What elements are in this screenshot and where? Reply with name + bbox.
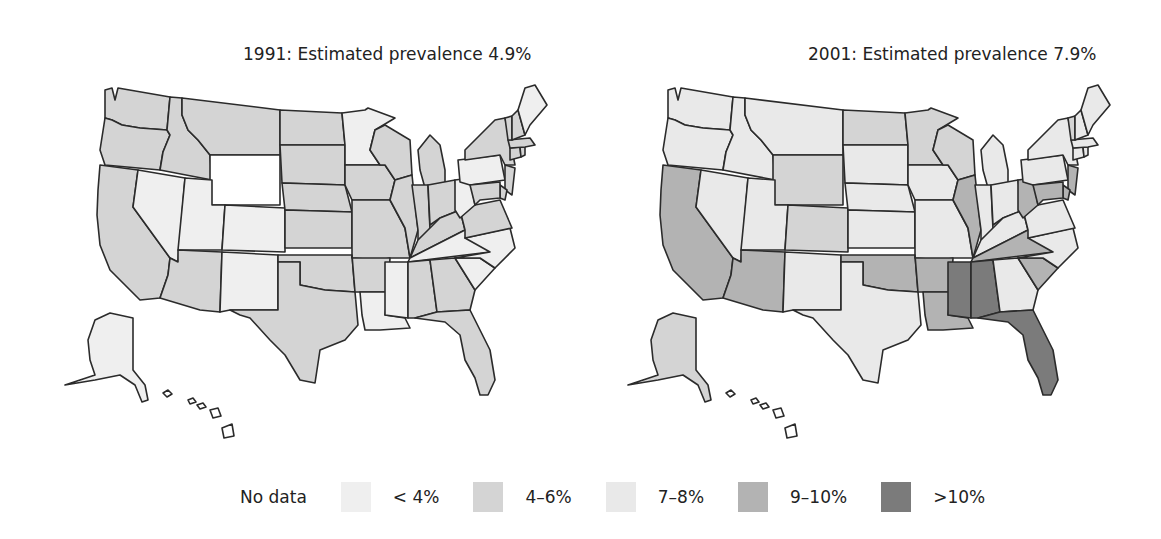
legend-item-4to6: 4–6% [473,482,571,512]
legend-swatch [738,482,768,512]
state-ne [845,183,915,212]
state-co [785,205,848,252]
state-me [1081,85,1110,135]
legend-label: 7–8% [658,487,704,507]
state-fl [978,310,1058,395]
state-ms [948,262,971,318]
legend-swatch [606,482,636,512]
legend-label: No data [240,487,307,507]
legend-item-lt4: < 4% [341,482,440,512]
state-ia [908,165,958,200]
us-map-2001 [0,0,1161,539]
state-ri [1083,147,1088,157]
legend: No data < 4% 4–6% 7–8% 9–10% >10% [240,482,1019,512]
legend-label: >10% [933,487,985,507]
state-nd [843,110,908,145]
state-ak [628,313,711,402]
legend-label: 9–10% [790,487,847,507]
state-az [723,250,785,312]
state-wy [773,155,843,205]
legend-label: 4–6% [525,487,571,507]
legend-swatch [881,482,911,512]
legend-label: < 4% [393,487,440,507]
legend-swatch [473,482,503,512]
legend-item-gt10: >10% [881,482,985,512]
state-sd [843,145,908,185]
legend-item-7to8: 7–8% [606,482,704,512]
legend-swatch [341,482,371,512]
state-hi [726,390,797,438]
state-ks [848,210,915,248]
legend-item-no-data: No data [240,487,307,507]
state-mi [981,135,1008,188]
legend-item-9to10: 9–10% [738,482,847,512]
state-ct [1073,147,1084,160]
state-nm [783,252,841,312]
